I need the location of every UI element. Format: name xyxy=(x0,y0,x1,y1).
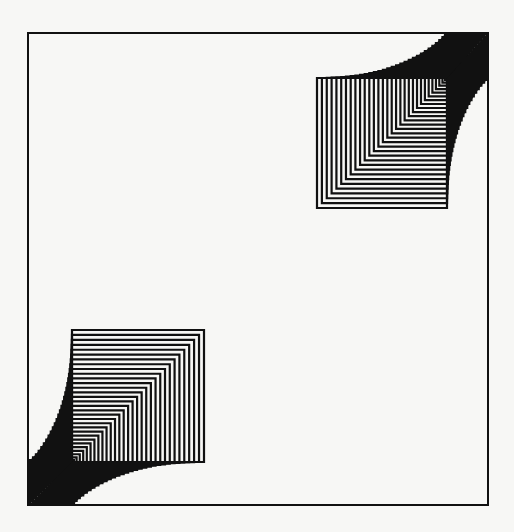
nested-squares-figure xyxy=(0,0,514,532)
